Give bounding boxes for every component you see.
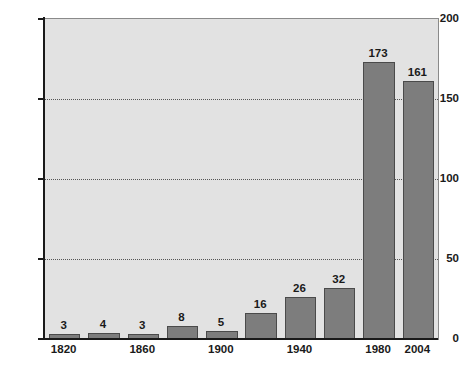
- bar: [363, 62, 394, 339]
- y-tick-mark: [38, 18, 43, 20]
- y-tick-label: 200: [425, 12, 459, 24]
- bar-chart: 050100150200 182018601900194019802004 34…: [0, 0, 459, 372]
- y-tick-label: 50: [425, 252, 459, 264]
- y-tick-mark: [38, 258, 43, 260]
- y-tick-mark: [38, 178, 43, 180]
- x-axis-line: [43, 338, 438, 340]
- y-tick-label: 150: [425, 92, 459, 104]
- plot-area: [44, 18, 439, 340]
- bar: [324, 288, 355, 339]
- bar: [403, 81, 434, 339]
- x-tick-label: 1860: [112, 342, 172, 356]
- bar-value-label: 32: [316, 273, 362, 285]
- bar: [245, 313, 276, 339]
- y-tick-label: 100: [425, 172, 459, 184]
- x-tick-label: 1900: [191, 342, 251, 356]
- bar-value-label: 161: [394, 66, 440, 78]
- y-tick-mark: [38, 98, 43, 100]
- x-tick-label: 1940: [269, 342, 329, 356]
- x-tick-label: 2004: [387, 342, 447, 356]
- bar-value-label: 173: [355, 47, 401, 59]
- bar-value-label: 5: [198, 316, 244, 328]
- y-axis-line: [43, 17, 45, 339]
- bar: [285, 297, 316, 339]
- x-tick-label: 1820: [34, 342, 94, 356]
- bar-value-label: 16: [237, 298, 283, 310]
